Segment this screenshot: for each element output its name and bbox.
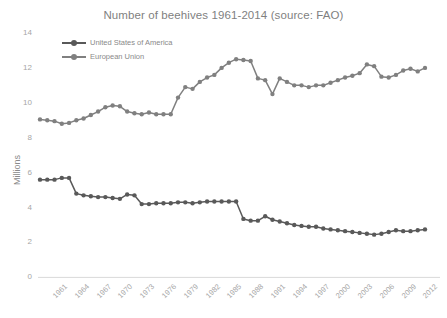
data-point	[45, 177, 49, 181]
data-point	[205, 75, 209, 79]
data-point	[212, 199, 216, 203]
data-point	[307, 225, 311, 229]
legend-label-eu: European Union	[90, 52, 144, 61]
data-point	[379, 74, 383, 78]
data-point	[285, 80, 289, 84]
data-point	[60, 122, 64, 126]
data-point	[256, 76, 260, 80]
data-point	[154, 112, 158, 116]
data-point	[169, 201, 173, 205]
data-point	[190, 201, 194, 205]
data-point	[408, 67, 412, 71]
data-point	[140, 112, 144, 116]
data-point	[401, 229, 405, 233]
data-point	[328, 81, 332, 85]
data-point	[147, 110, 151, 114]
data-point	[365, 232, 369, 236]
data-point	[357, 231, 361, 235]
data-point	[365, 62, 369, 66]
series-line	[40, 178, 425, 235]
data-point	[96, 109, 100, 113]
data-point	[423, 66, 427, 70]
data-point	[227, 199, 231, 203]
data-point	[248, 218, 252, 222]
data-point	[256, 218, 260, 222]
data-point	[67, 176, 71, 180]
data-point	[103, 105, 107, 109]
data-point	[314, 225, 318, 229]
data-point	[357, 71, 361, 75]
data-point	[45, 118, 49, 122]
data-point	[379, 232, 383, 236]
data-point	[234, 199, 238, 203]
data-point	[161, 112, 165, 116]
data-point	[416, 228, 420, 232]
data-point	[394, 73, 398, 77]
data-point	[372, 232, 376, 236]
series-line	[40, 59, 425, 124]
data-point	[89, 194, 93, 198]
data-point	[350, 230, 354, 234]
data-point	[278, 76, 282, 80]
data-point	[270, 92, 274, 96]
data-point	[96, 195, 100, 199]
data-point	[118, 197, 122, 201]
data-point	[74, 191, 78, 195]
data-point	[74, 118, 78, 122]
data-point	[336, 78, 340, 82]
data-point	[307, 85, 311, 89]
data-point	[285, 221, 289, 225]
legend-item-usa: United States of America	[62, 36, 173, 49]
data-point	[401, 68, 405, 72]
data-point	[278, 219, 282, 223]
data-point	[67, 121, 71, 125]
data-point	[416, 69, 420, 73]
data-point	[423, 227, 427, 231]
data-point	[161, 201, 165, 205]
data-point	[336, 228, 340, 232]
data-point	[190, 87, 194, 91]
data-point	[81, 116, 85, 120]
data-point	[263, 214, 267, 218]
data-point	[292, 223, 296, 227]
chart-container: Number of beehives 1961-2014 (source: FA…	[0, 0, 447, 318]
legend-item-eu: European Union	[62, 50, 173, 63]
data-point	[408, 229, 412, 233]
data-point	[386, 75, 390, 79]
data-point	[372, 64, 376, 68]
data-point	[314, 83, 318, 87]
data-point	[270, 218, 274, 222]
series-usa	[38, 176, 427, 237]
data-point	[205, 199, 209, 203]
data-point	[386, 230, 390, 234]
data-point	[147, 202, 151, 206]
data-point	[350, 74, 354, 78]
data-point	[263, 78, 267, 82]
data-point	[154, 201, 158, 205]
data-point	[183, 85, 187, 89]
data-point	[219, 66, 223, 70]
data-point	[81, 193, 85, 197]
series-eu	[38, 57, 427, 126]
data-point	[227, 60, 231, 64]
data-point	[60, 176, 64, 180]
data-point	[169, 112, 173, 116]
data-point	[248, 59, 252, 63]
data-point	[125, 109, 129, 113]
legend-swatch-usa	[62, 38, 86, 48]
data-point	[234, 57, 238, 61]
legend-swatch-eu	[62, 52, 86, 62]
data-point	[38, 117, 42, 121]
data-point	[132, 193, 136, 197]
data-point	[241, 58, 245, 62]
data-point	[89, 113, 93, 117]
data-point	[343, 229, 347, 233]
data-point	[212, 73, 216, 77]
data-point	[52, 177, 56, 181]
data-point	[241, 217, 245, 221]
data-point	[140, 202, 144, 206]
data-point	[176, 200, 180, 204]
data-point	[219, 199, 223, 203]
data-point	[118, 104, 122, 108]
data-point	[198, 80, 202, 84]
